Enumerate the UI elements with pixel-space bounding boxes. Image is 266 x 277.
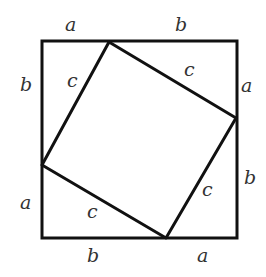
label-bottom-a: a: [197, 244, 208, 266]
label-right-b: b: [244, 166, 256, 188]
label-top-a: a: [65, 13, 76, 35]
label-bottom-b: b: [87, 244, 99, 266]
label-left-a: a: [20, 191, 31, 213]
pythagorean-diagram: a b b a a b b a c c c c: [0, 0, 266, 277]
label-c-bottom-right: c: [202, 178, 213, 200]
label-left-b: b: [20, 73, 32, 95]
label-c-top-left: c: [67, 69, 78, 91]
label-top-b: b: [175, 13, 187, 35]
label-c-bottom-left: c: [87, 200, 98, 222]
label-c-top-right: c: [184, 58, 195, 80]
label-right-a: a: [241, 74, 252, 96]
